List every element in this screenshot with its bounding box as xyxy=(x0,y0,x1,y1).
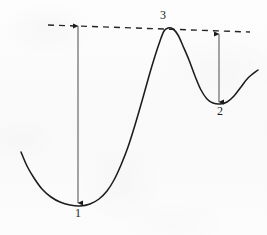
label-maximum-3: 3 xyxy=(155,9,171,21)
label-minimum-1: 1 xyxy=(70,207,86,219)
figure-canvas: 1 2 3 xyxy=(0,0,267,235)
label-minimum-2: 2 xyxy=(212,105,228,117)
diagram-svg xyxy=(0,0,267,235)
